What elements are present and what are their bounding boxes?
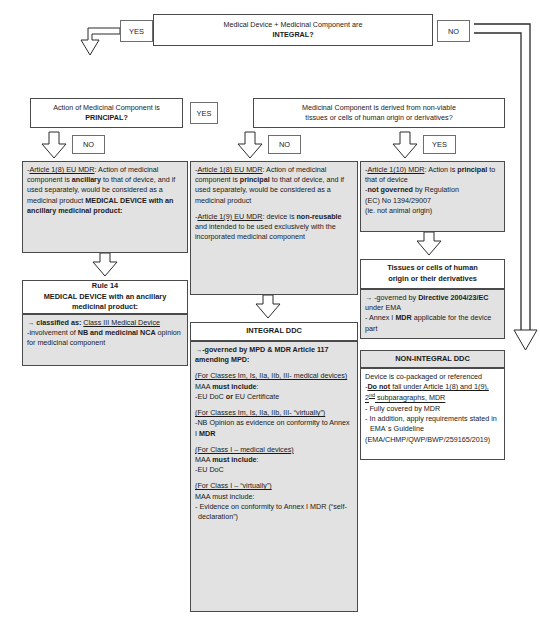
integral-s3-l2: -EU DoC (195, 465, 353, 475)
non-integral-ddc-header-box: NON-INTEGRAL DDC (360, 350, 505, 368)
middle-article-p2-b: and intended to be used exclusively with… (195, 222, 336, 241)
label-no-left[interactable]: NO (72, 135, 105, 154)
integral-ddc-header-label: INTEGRAL DDC (246, 326, 302, 337)
non-integral-l1: Device is co-packaged or referenced (365, 372, 500, 382)
tissues-body-l2-bold: MDR (395, 313, 411, 322)
yes-right-arrow (393, 132, 417, 158)
decision-box-integral[interactable]: Medical Device + Medicinal Component are… (153, 14, 433, 46)
integral-s3-l1-bold: must include (212, 455, 256, 464)
integral-s1-l2-post: EU Certificate (233, 392, 279, 401)
label-no-mid[interactable]: NO (268, 135, 301, 154)
flowchart-canvas: Medical Device + Medicinal Component are… (0, 0, 540, 630)
decision-integral-line2: INTEGRAL? (158, 30, 428, 40)
right-article-l1: -Article 1(10) MDR: Action is principal … (365, 165, 500, 185)
middle-article-p1-link[interactable]: Article 1(8) EU MDR (197, 165, 262, 174)
decision-nonviable-line2: tissues or cells of human origin or deri… (258, 113, 500, 123)
integral-s1-l1-pre: MAA (195, 382, 212, 391)
right-article-box: -Article 1(10) MDR: Action is principal … (360, 161, 505, 232)
non-integral-l5: (EMA/CHMP/QWP/BWP/259165/2019) (365, 435, 500, 445)
non-integral-ddc-header-label: NON-INTEGRAL DDC (395, 354, 470, 365)
no-left-arrow (42, 132, 66, 158)
left-rule-header-line1: Rule 14 (27, 281, 183, 292)
integral-s2-l1-bold: MDR (199, 429, 215, 438)
left-rule-classified-line: → classified as: Class III Medical Devic… (27, 318, 183, 328)
tissues-header-line1: Tissues or cells of human (365, 263, 500, 274)
integral-s3-l1-post: : (257, 455, 259, 464)
integral-s3-head: (For Class I – medical devices) (195, 445, 353, 455)
middle-article-p2-a: : device is (263, 212, 297, 221)
no-mid-arrow (238, 132, 262, 158)
decision-integral-line1: Medical Device + Medicinal Component are (158, 20, 428, 30)
middle-article-p1: -Article 1(8) EU MDR: Action of medicina… (195, 165, 353, 206)
tissues-body-l2-pre: - Annex I (365, 313, 395, 322)
integral-gov-bold: -governed by MPD & MDR Article 117 amend… (195, 345, 329, 364)
integral-s2-head: (For Classes Im, Is, IIa, IIb, III- “vir… (195, 408, 353, 418)
middle-article-p2-bold: non-reusable (296, 212, 341, 221)
tissues-body-l2: - Annex I MDR applicable for the device … (365, 313, 500, 333)
right-article-bold-a: principal (457, 165, 487, 174)
decision-box-principal[interactable]: Action of Medicinal Component is PRINCIP… (30, 98, 183, 128)
label-yes-right[interactable]: YES (423, 135, 456, 154)
left-article-box: -Article 1(8) EU MDR: Action of medicina… (22, 161, 188, 253)
integral-s1-l2-bold: or (226, 392, 233, 401)
tissues-body-l1-bold: Directive 2004/23/EC (418, 293, 488, 302)
tissues-body-l1-post: under EMA (365, 303, 401, 312)
integral-ddc-header-box: INTEGRAL DDC (190, 322, 358, 341)
middle-article-p2: -Article 1(9) EU MDR: device is non-reus… (195, 212, 353, 243)
right-down-arrow (417, 232, 441, 255)
left-article-bold-a: ancillary (72, 175, 101, 184)
integral-s1-l1-bold: must include (212, 382, 256, 391)
label-no-top[interactable]: NO (437, 20, 470, 42)
left-rule-header-line2: MEDICAL DEVICE with an ancillary medicin… (27, 292, 183, 313)
left-rule-arrow: → classified as: (27, 318, 83, 327)
integral-s3-l1: MAA must include: (195, 455, 353, 465)
integral-s4-l1: MAA must include: (195, 492, 353, 502)
integral-s1-l2-pre: -EU DoC (195, 392, 226, 401)
label-yes-top[interactable]: YES (120, 20, 153, 42)
decision-principal-line1: Action of Medicinal Component is (35, 103, 178, 113)
label-yes-mid[interactable]: YES (190, 102, 218, 124)
left-down-arrow (93, 253, 117, 276)
integral-s1-l1: MAA must include: (195, 382, 353, 392)
integral-s2-l1-pre: -NB Opinion as evidence on conformity to… (195, 418, 350, 437)
tissues-body-l1: → -governed by Directive 2004/23/EC unde… (365, 293, 500, 313)
non-integral-l4: - In addition, apply requirements stated… (365, 414, 500, 434)
non-integral-l3: - Fully covered by MDR (365, 404, 500, 414)
right-article-link[interactable]: Article 1(10) MDR (367, 165, 424, 174)
middle-article-p1-bold: principal (240, 175, 270, 184)
left-rule-body-box: → classified as: Class III Medical Devic… (22, 314, 188, 366)
tissues-body-box: → -governed by Directive 2004/23/EC unde… (360, 289, 505, 339)
non-integral-l2: -Do not fall under Article 1(8) and 1(9)… (365, 382, 500, 404)
integral-s1-l2: -EU DoC or EU Certificate (195, 392, 353, 402)
right-article-l2-bold: not governed (367, 185, 413, 194)
non-integral-l2-post: subparagraphs, MDR (375, 394, 445, 403)
right-article-l2-post: by Regulation (413, 185, 459, 194)
integral-s1-head-text: (For Classes Im, Is, IIa, IIb, III- medi… (195, 371, 347, 380)
middle-article-p2-link[interactable]: Article 1(9) EU MDR (197, 212, 262, 221)
left-rule-involvement-line: -involvement of NB and medicinal NCA opi… (27, 328, 183, 348)
left-rule-class-link[interactable]: Class III Medical Device (83, 318, 160, 327)
tissues-header-line2: origin or their derivatives (365, 274, 500, 285)
middle-down-arrow (256, 295, 280, 318)
integral-s3-l1-pre: MAA (195, 455, 212, 464)
integral-s4-l2: - Evidence on conformity to Annex I MDR … (195, 502, 353, 522)
decision-principal-line2: PRINCIPAL? (35, 113, 178, 123)
decision-nonviable-line1: Medicinal Component is derived from non-… (258, 103, 500, 113)
non-integral-ddc-body-box: Device is co-packaged or referenced -Do … (360, 368, 505, 460)
integral-ddc-body-box: →-governed by MPD & MDR Article 117 amen… (190, 341, 358, 612)
integral-gov-line: →-governed by MPD & MDR Article 117 amen… (195, 345, 353, 365)
right-article-l4: (ie. not animal origin) (365, 206, 500, 216)
left-article-link[interactable]: Article 1(8) EU MDR (29, 165, 94, 174)
tissues-header-box: Tissues or cells of human origin or thei… (360, 259, 505, 289)
tissues-body-l1-pre: -governed by (372, 293, 418, 302)
integral-s4-head-text: (For Class I – “virtually”) (195, 481, 272, 490)
left-rule-header-box: Rule 14 MEDICAL DEVICE with an ancillary… (22, 280, 188, 314)
right-article-a: : Action is (425, 165, 458, 174)
decision-box-nonviable[interactable]: Medicinal Component is derived from non-… (253, 98, 505, 128)
right-article-l3: (EC) No 1394/29007 (365, 196, 500, 206)
right-article-l2: -not governed by Regulation (365, 185, 500, 195)
integral-s1-head: (For Classes Im, Is, IIa, IIb, III- medi… (195, 371, 353, 381)
integral-s3-head-text: (For Class I – medical devices) (195, 445, 294, 454)
integral-s4-head: (For Class I – “virtually”) (195, 481, 353, 491)
left-rule-bullet-pre: -involvement of (27, 328, 78, 337)
